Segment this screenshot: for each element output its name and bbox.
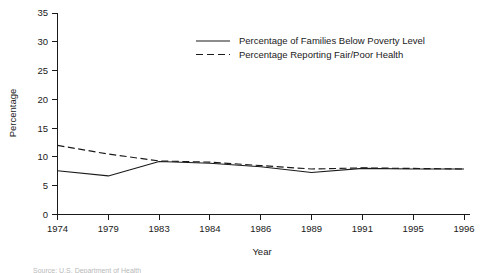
- series-line-1: [58, 145, 465, 169]
- y-tick-label: 35: [37, 7, 48, 18]
- y-tick-label: 5: [43, 180, 48, 191]
- x-tick-label: 1974: [47, 223, 68, 234]
- y-tick-group: 05101520253035: [37, 7, 57, 220]
- y-tick-label: 0: [43, 209, 48, 220]
- series-group: [58, 145, 465, 176]
- y-axis-title: Percentage: [7, 89, 18, 138]
- y-tick-label: 15: [37, 123, 48, 134]
- x-tick-label: 1991: [352, 223, 373, 234]
- x-tick-label: 1983: [149, 223, 170, 234]
- legend-label-1: Percentage Reporting Fair/Poor Health: [239, 49, 403, 60]
- x-axis: 197419791983198419861989199119951996 Yea…: [47, 215, 475, 258]
- y-tick-label: 25: [37, 65, 48, 76]
- chart-figure: 05101520253035 Percentage 19741979198319…: [0, 0, 481, 273]
- y-tick-label: 20: [37, 94, 48, 105]
- x-tick-label: 1984: [199, 223, 220, 234]
- x-axis-title: Year: [252, 246, 271, 257]
- line-chart: 05101520253035 Percentage 19741979198319…: [0, 0, 481, 273]
- x-tick-label: 1986: [250, 223, 271, 234]
- y-tick-label: 30: [37, 36, 48, 47]
- y-axis: 05101520253035 Percentage: [7, 7, 58, 220]
- x-tick-group: 197419791983198419861989199119951996: [47, 215, 475, 235]
- x-tick-label: 1989: [301, 223, 322, 234]
- x-tick-label: 1995: [403, 223, 424, 234]
- y-tick-label: 10: [37, 151, 48, 162]
- chart-legend: Percentage of Families Below Poverty Lev…: [196, 35, 425, 60]
- x-tick-label: 1996: [453, 223, 474, 234]
- source-note: Source: U.S. Department of Health: [33, 266, 141, 273]
- x-tick-label: 1979: [98, 223, 119, 234]
- legend-label-0: Percentage of Families Below Poverty Lev…: [239, 35, 425, 46]
